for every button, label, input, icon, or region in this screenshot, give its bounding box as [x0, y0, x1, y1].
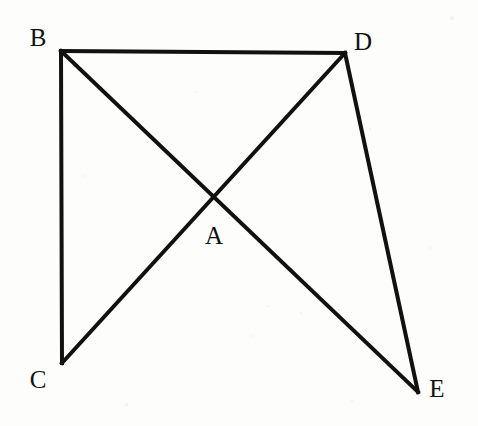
- figure-canvas: [0, 0, 478, 426]
- segment-bd: [61, 51, 345, 53]
- segments-group: [61, 51, 418, 392]
- segment-de: [345, 53, 418, 392]
- vertex-label-d: D: [354, 29, 372, 54]
- geometry-diagram: B D A C E: [0, 0, 478, 426]
- vertex-label-a: A: [205, 223, 223, 248]
- segment-be: [61, 51, 418, 392]
- vertex-label-e: E: [429, 376, 444, 401]
- vertex-label-b: B: [30, 25, 47, 50]
- segment-bc: [61, 51, 62, 363]
- vertex-label-c: C: [30, 367, 47, 392]
- segment-cd: [62, 53, 345, 363]
